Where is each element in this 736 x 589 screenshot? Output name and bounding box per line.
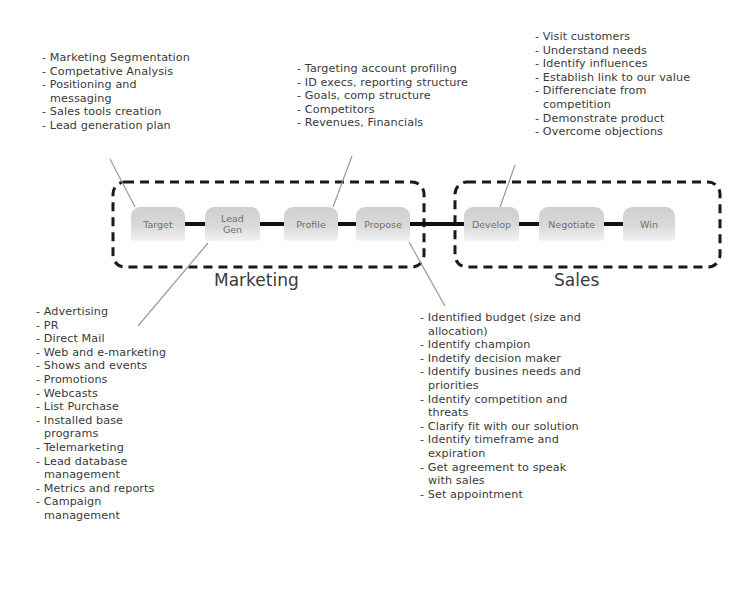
- list-item: Indetify decision maker: [420, 352, 585, 366]
- list-item: Identify champion: [420, 338, 585, 352]
- list-item: Competitors: [297, 103, 497, 117]
- list-item: Metrics and reports: [36, 482, 186, 496]
- list-item: Visit customers: [535, 30, 715, 44]
- list-item: Sales tools creation: [42, 105, 222, 119]
- lead-gen-activities-list: Advertising PR Direct Mail Web and e-mar…: [36, 305, 186, 523]
- list-item: Understand needs: [535, 44, 715, 58]
- list-item: Webcasts: [36, 387, 186, 401]
- list-item: Telemarketing: [36, 441, 186, 455]
- list-item: Identify influences: [535, 57, 715, 71]
- list-item: Lead generation plan: [42, 119, 222, 133]
- list-item: Clarify fit with our solution: [420, 420, 585, 434]
- list-item: Identify timeframe and expiration: [420, 433, 585, 460]
- list-item: ID execs, reporting structure: [297, 76, 497, 90]
- develop-activities-list: Visit customers Understand needs Identif…: [535, 30, 715, 139]
- list-item: Lead database management: [36, 455, 144, 482]
- list-item: Advertising: [36, 305, 186, 319]
- list-item: Marketing Segmentation: [42, 51, 222, 65]
- list-item: Get agreement to speak with sales: [420, 461, 585, 488]
- sales-group-label: Sales: [554, 270, 599, 290]
- list-item: Revenues, Financials: [297, 116, 497, 130]
- list-item: Identify competition and threats: [420, 393, 585, 420]
- list-item: Installed base programs: [36, 414, 139, 441]
- stage-profile: Profile: [284, 207, 338, 241]
- list-item: PR: [36, 319, 186, 333]
- list-item: Shows and events: [36, 359, 186, 373]
- list-item: Goals, comp structure: [297, 89, 497, 103]
- list-item: List Purchase: [36, 400, 186, 414]
- list-item: Targeting account profiling: [297, 62, 497, 76]
- list-item: Overcome objections: [535, 125, 715, 139]
- list-item: Establish link to our value: [535, 71, 715, 85]
- list-item: Identify busines needs and priorities: [420, 365, 585, 392]
- list-item: Competative Analysis: [42, 65, 222, 79]
- list-item: Set appointment: [420, 488, 585, 502]
- stage-develop: Develop: [464, 207, 519, 241]
- stage-target: Target: [131, 207, 185, 241]
- list-item: Demonstrate product: [535, 112, 715, 126]
- stage-negotiate: Negotiate: [539, 207, 604, 241]
- marketing-group-label: Marketing: [214, 270, 299, 290]
- list-item: Web and e-marketing: [36, 346, 186, 360]
- stage-lead-gen: Lead Gen: [205, 207, 260, 241]
- stage-propose: Propose: [356, 207, 410, 241]
- list-item: Campaign management: [36, 495, 124, 522]
- profile-activities-list: Targeting account profiling ID execs, re…: [297, 62, 497, 130]
- list-item: Direct Mail: [36, 332, 186, 346]
- stage-win: Win: [623, 207, 675, 241]
- list-item: Promotions: [36, 373, 186, 387]
- list-item: Differenciate from competition: [535, 84, 658, 111]
- target-activities-list: Marketing Segmentation Competative Analy…: [42, 51, 222, 133]
- list-item: Positioning and messaging: [42, 78, 145, 105]
- list-item: Identified budget (size and allocation): [420, 311, 585, 338]
- propose-activities-list: Identified budget (size and allocation) …: [420, 311, 585, 501]
